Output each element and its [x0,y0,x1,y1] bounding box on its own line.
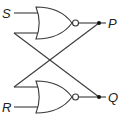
junction-dot-p [97,21,101,25]
nor-gate-bottom [36,81,79,113]
label-r: R [2,100,11,115]
label-q: Q [108,90,118,105]
label-p: P [108,16,117,31]
sr-latch-diagram: S P R Q [0,0,123,117]
inverter-bubble-top [73,20,79,26]
inverter-bubble-bottom [73,94,79,100]
junction-dot-q [97,95,101,99]
label-s: S [2,6,11,21]
nor-gate-top [36,7,79,39]
